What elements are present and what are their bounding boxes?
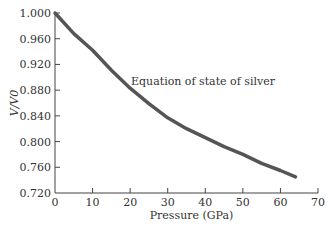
y-tick-label: 1.000	[20, 7, 52, 20]
y-axis-label: V/V0	[8, 90, 21, 117]
x-tick-label: 40	[198, 196, 212, 209]
y-tick-label: 0.760	[20, 161, 52, 174]
data-line	[55, 13, 296, 177]
x-tick-label: 50	[236, 196, 250, 209]
y-tick-label: 0.960	[20, 33, 52, 46]
chart: 0102030405060700.7200.7600.8000.8400.880…	[0, 0, 330, 229]
y-tick-label: 0.840	[20, 110, 52, 123]
x-tick-label: 10	[86, 196, 100, 209]
x-tick-label: 60	[273, 196, 287, 209]
y-tick-label: 0.720	[20, 187, 52, 200]
x-tick-label: 70	[311, 196, 325, 209]
chart-svg: 0102030405060700.7200.7600.8000.8400.880…	[0, 0, 330, 229]
x-axis-label: Pressure (GPa)	[150, 209, 234, 222]
annotation-label: Equation of state of silver	[131, 75, 276, 88]
y-tick-label: 0.920	[20, 58, 52, 71]
y-tick-label: 0.880	[20, 84, 52, 97]
x-tick-label: 0	[52, 196, 59, 209]
x-tick-label: 20	[123, 196, 137, 209]
x-tick-label: 30	[161, 196, 175, 209]
y-tick-label: 0.800	[20, 136, 52, 149]
